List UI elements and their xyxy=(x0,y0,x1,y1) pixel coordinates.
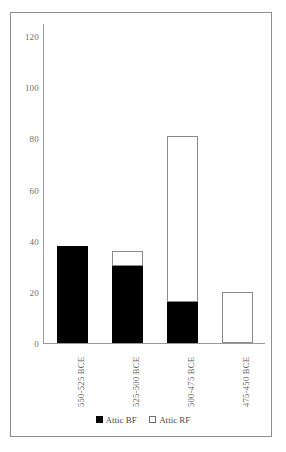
bar-segment-attic-rf[interactable] xyxy=(167,136,198,302)
legend-item-attic-bf: Attic BF xyxy=(96,414,137,425)
x-axis-label-1: 550-525 BCE xyxy=(76,357,86,407)
x-axis-label-2: 525-500 BCE xyxy=(131,357,141,407)
x-axis-label-3: 500-475 BCE xyxy=(186,357,196,407)
bar-segment-attic-bf[interactable] xyxy=(57,246,88,343)
bar-group[interactable] xyxy=(57,0,88,343)
bar-segment-attic-bf[interactable] xyxy=(112,266,143,343)
legend-swatch-open-white-square xyxy=(149,416,156,423)
legend-label-attic-bf: Attic BF xyxy=(106,415,137,425)
bar-group[interactable] xyxy=(167,0,198,343)
bar-segment-attic-rf[interactable] xyxy=(112,251,143,266)
legend-item-attic-rf: Attic RF xyxy=(149,414,190,425)
legend-swatch-filled-black-square xyxy=(96,416,103,423)
legend-label-attic-rf: Attic RF xyxy=(159,415,190,425)
bar-group[interactable] xyxy=(112,0,143,343)
x-axis-label-4: 475-450 BCE xyxy=(241,357,251,407)
bar-segment-attic-bf[interactable] xyxy=(167,302,198,343)
bar-segment-attic-rf[interactable] xyxy=(222,292,253,343)
chart-legend: Attic BF Attic RF xyxy=(0,414,286,425)
bar-group[interactable] xyxy=(222,0,253,343)
